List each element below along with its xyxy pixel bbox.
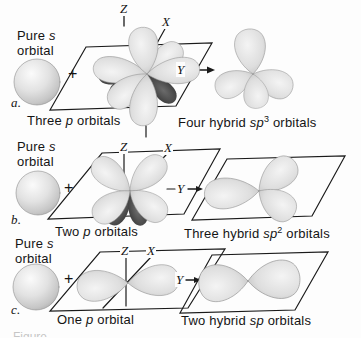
caption-two-p-orbitals: Two p orbitals	[55, 224, 138, 239]
p-lobe-left	[76, 268, 130, 303]
z-axis-label-a: Z	[119, 1, 128, 16]
caption-text: Two	[55, 224, 83, 239]
y-axis-label-b: Y	[176, 181, 185, 196]
x-axis-label-c: X	[146, 243, 156, 258]
caption-text: orbitals	[73, 113, 120, 128]
caption-italic: p	[83, 224, 90, 239]
sp-lobe-left	[197, 263, 249, 303]
caption-three-p-orbitals: Three p orbitals	[27, 113, 121, 128]
cropped-figure-caption: Figure	[13, 330, 47, 337]
caption-text: Two hybrid	[181, 313, 250, 328]
one-p-orbital	[76, 263, 181, 303]
p-lobe-right	[127, 263, 181, 298]
row-c-graphics	[13, 249, 328, 313]
three-sp2-hybrid-orbitals	[203, 150, 304, 227]
caption-italic: sp	[250, 313, 264, 328]
caption-two-sp-orbitals: Two hybrid sp orbitals	[181, 313, 311, 328]
z-axis-label-c: Z	[120, 243, 129, 258]
pure-s-italic: s	[49, 139, 56, 154]
y-axis-label-a: Y	[176, 62, 185, 77]
caption-text: Three hybrid	[184, 226, 263, 241]
caption-text: orbitals	[91, 224, 138, 239]
y-arrowhead-a	[207, 67, 215, 74]
orbital-text: orbital	[17, 154, 54, 169]
row-letter-a: a.	[11, 95, 21, 110]
pure-s-text: Pure	[17, 139, 49, 154]
caption-text: Four hybrid	[178, 115, 250, 130]
x-axis-label-b: X	[163, 140, 173, 155]
pure-s-italic: s	[49, 28, 56, 43]
caption-one-p-orbital: One p orbital	[57, 312, 134, 327]
caption-three-sp2-orbitals: Three hybrid sp2 orbitals	[184, 226, 330, 241]
z-axis-label-b: Z	[119, 139, 128, 154]
caption-text: Three	[27, 113, 66, 128]
sp-lobe-right	[247, 259, 301, 300]
pure-s-orbital-label-b: Pure s orbital	[17, 139, 56, 169]
plus-sign-b: +	[64, 180, 74, 195]
x-axis-label-a: X	[161, 14, 171, 29]
caption-italic: sp	[263, 226, 277, 241]
caption-text: orbitals	[264, 313, 311, 328]
two-sp-hybrid-orbitals	[197, 259, 300, 303]
orbital-text: orbital	[15, 251, 52, 266]
plus-sign-c: +	[64, 271, 74, 286]
two-p-orbitals	[86, 149, 173, 230]
caption-text: orbitals	[269, 115, 316, 130]
caption-text: orbital	[93, 312, 134, 327]
caption-four-sp3-orbitals: Four hybrid sp3 orbitals	[178, 115, 316, 130]
caption-text: orbitals	[283, 226, 330, 241]
orbital-text: orbital	[17, 43, 54, 58]
y-axis-label-c: Y	[175, 272, 184, 287]
sp3-lobe-up	[233, 27, 268, 75]
pure-s-orbital-label-a: Pure s orbital	[17, 28, 56, 58]
caption-text: One	[57, 312, 86, 327]
sp2-lobe-left	[203, 176, 260, 211]
pure-s-orbital-label-c: Pure s orbital	[15, 236, 54, 266]
row-letter-c: c.	[11, 302, 20, 317]
s-orbital-sphere-b	[16, 171, 60, 215]
plus-sign-a: +	[68, 66, 78, 81]
pure-s-text: Pure	[15, 236, 47, 251]
orbital-hybridization-diagram: Pure s orbital + a. Z X Y Three p orbita…	[0, 0, 361, 338]
pure-s-italic: s	[47, 236, 54, 251]
four-sp3-hybrid-orbitals	[211, 27, 298, 110]
pure-s-text: Pure	[17, 28, 49, 43]
row-letter-b: b.	[11, 212, 21, 227]
caption-italic: sp	[250, 115, 264, 130]
